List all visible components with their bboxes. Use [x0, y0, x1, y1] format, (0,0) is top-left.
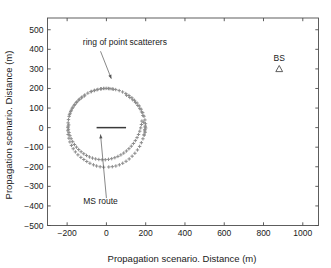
y-tick-label: 300	[29, 64, 43, 74]
y-tick-label: −300	[24, 181, 43, 191]
y-tick-label: −100	[24, 142, 43, 152]
y-tick-label: 200	[29, 83, 43, 93]
x-tick-label: 200	[139, 228, 153, 238]
x-tick-label: 0	[104, 228, 109, 238]
y-tick-label: −200	[24, 162, 43, 172]
x-tick-label: 600	[217, 228, 231, 238]
y-tick-label: 500	[29, 25, 43, 35]
x-tick-label: −200	[58, 228, 77, 238]
x-tick-label: 800	[256, 228, 270, 238]
annotation-label: BS	[274, 53, 286, 63]
x-tick-label: 400	[178, 228, 192, 238]
y-tick-label: −500	[24, 221, 43, 231]
y-tick-label: 0	[39, 123, 44, 133]
y-tick-label: 400	[29, 44, 43, 54]
annotation-label: ring of point scatterers	[83, 37, 167, 47]
y-tick-label: −400	[24, 201, 43, 211]
annotation-label: MS route	[83, 196, 118, 206]
x-axis-label: Propagation scenario. Distance (m)	[108, 253, 257, 264]
figure-canvas: −20002004006008001000 −500−400−300−200−1…	[0, 0, 331, 268]
y-tick-label: 100	[29, 103, 43, 113]
x-tick-label: 1000	[293, 228, 312, 238]
y-axis-label: Propagation scenario. Distance (m)	[3, 51, 14, 200]
plot-svg: −20002004006008001000 −500−400−300−200−1…	[0, 0, 331, 268]
